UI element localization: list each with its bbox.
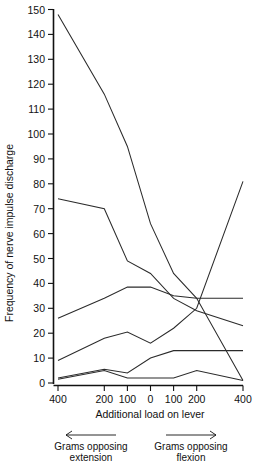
- x-tick-label: 400: [234, 393, 252, 405]
- x-tick-label: 400: [49, 393, 67, 405]
- y-axis-title: Frequency of nerve impulse discharge: [3, 144, 15, 322]
- figure-container: Frequency of nerve impulse discharge: [0, 0, 261, 465]
- right-note-line2: flexion: [177, 452, 206, 463]
- series-line-unit-4: [58, 181, 243, 360]
- x-tick-marks: [58, 386, 243, 392]
- y-tick-label: 60: [33, 228, 45, 240]
- y-tick-label: 90: [33, 153, 45, 165]
- y-tick-label: 0: [39, 377, 45, 389]
- line-chart: Frequency of nerve impulse discharge: [0, 0, 261, 465]
- series-line-unit-3: [58, 287, 243, 318]
- y-tick-labels: 150 140 130 120 110 100 90 80 70 60 50 4…: [27, 4, 45, 390]
- x-tick-label: 0: [148, 393, 154, 405]
- right-note-line1: Grams opposing: [154, 441, 227, 452]
- x-tick-label: 200: [188, 393, 206, 405]
- series-group: [58, 14, 243, 380]
- left-arrow-note: Grams opposing extension: [54, 431, 127, 463]
- series-line-unit-1: [58, 14, 243, 380]
- y-tick-marks: [48, 10, 54, 384]
- x-tick-labels: 400 200 100 0 100 200 400: [49, 393, 252, 405]
- y-tick-label: 30: [33, 302, 45, 314]
- y-tick-label: 80: [33, 178, 45, 190]
- series-line-unit-6: [58, 371, 243, 381]
- y-tick-label: 20: [33, 327, 45, 339]
- y-tick-label: 110: [28, 103, 45, 115]
- y-tick-label: 10: [33, 352, 45, 364]
- y-tick-label: 40: [33, 277, 45, 289]
- x-tick-label: 200: [96, 393, 114, 405]
- x-tick-label: 100: [119, 393, 137, 405]
- y-tick-label: 150: [27, 4, 45, 16]
- right-arrow-note: Grams opposing flexion: [154, 431, 227, 463]
- y-tick-label: 130: [27, 53, 45, 65]
- x-tick-label: 100: [165, 393, 183, 405]
- y-tick-label: 120: [27, 78, 45, 90]
- left-note-line2: extension: [70, 452, 113, 463]
- y-tick-label: 140: [27, 28, 45, 40]
- y-tick-label: 50: [33, 253, 45, 265]
- left-note-line1: Grams opposing: [54, 441, 127, 452]
- x-axis-title: Additional load on lever: [95, 408, 205, 420]
- y-tick-label: 70: [33, 203, 45, 215]
- y-tick-label: 100: [27, 128, 45, 140]
